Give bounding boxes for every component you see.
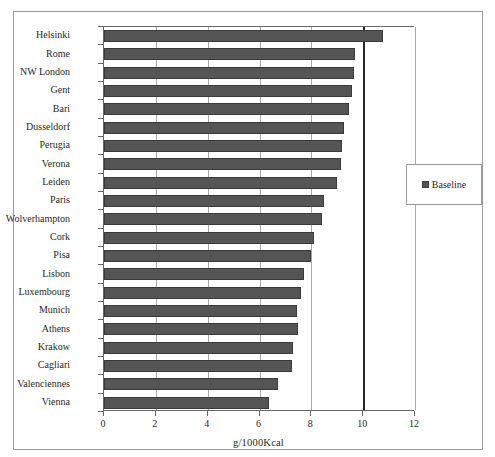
category-label-gent: Gent [0, 85, 70, 95]
bar-nw-london[interactable] [104, 67, 354, 79]
bar-rome[interactable] [104, 48, 355, 60]
bar-row [104, 284, 415, 302]
category-tick [98, 191, 103, 192]
bar-krakow[interactable] [104, 342, 293, 354]
bar-row [104, 137, 415, 155]
bar-perugia[interactable] [104, 140, 342, 152]
category-label-athens: Athens [0, 324, 70, 334]
bar-valenciennes[interactable] [104, 378, 278, 390]
x-tick-label-12: 12 [394, 418, 434, 429]
category-tick [98, 63, 103, 64]
category-tick [98, 44, 103, 45]
x-tick-label-10: 10 [342, 418, 382, 429]
category-label-paris: Paris [0, 195, 70, 205]
category-tick [98, 209, 103, 210]
bar-dusseldorf[interactable] [104, 122, 344, 134]
bar-luxembourg[interactable] [104, 287, 301, 299]
category-label-rome: Rome [0, 49, 70, 59]
bar-row [104, 82, 415, 100]
plot-area [103, 26, 414, 411]
bar-cork[interactable] [104, 232, 314, 244]
bar-wolverhampton[interactable] [104, 213, 322, 225]
x-tick-8 [310, 411, 311, 416]
category-label-helsinki: Helsinki [0, 30, 70, 40]
category-label-leiden: Leiden [0, 177, 70, 187]
category-tick [98, 136, 103, 137]
category-label-dusseldorf: Dusseldorf [0, 122, 70, 132]
category-tick [98, 118, 103, 119]
category-label-cagliari: Cagliari [0, 360, 70, 370]
category-label-cork: Cork [0, 232, 70, 242]
bar-row [104, 45, 415, 63]
bar-row [104, 119, 415, 137]
category-tick [98, 154, 103, 155]
bar-row [104, 174, 415, 192]
category-tick [98, 81, 103, 82]
category-label-verona: Verona [0, 159, 70, 169]
category-label-perugia: Perugia [0, 140, 70, 150]
bar-bari[interactable] [104, 103, 349, 115]
bar-rows [104, 27, 414, 410]
bar-paris[interactable] [104, 195, 324, 207]
category-tick [98, 99, 103, 100]
chart-legend: Baseline [406, 164, 482, 205]
category-label-valenciennes: Valenciennes [0, 379, 70, 389]
legend-entry-baseline: Baseline [422, 180, 466, 190]
bar-row [104, 339, 415, 357]
bar-row [104, 375, 415, 393]
x-tick-6 [259, 411, 260, 416]
x-tick-0 [103, 411, 104, 416]
bar-leiden[interactable] [104, 177, 337, 189]
category-label-vienna: Vienna [0, 397, 70, 407]
category-tick [98, 264, 103, 265]
bar-gent[interactable] [104, 85, 352, 97]
category-tick [98, 301, 103, 302]
category-tick [98, 228, 103, 229]
gridline-12 [415, 27, 416, 410]
x-tick-label-6: 6 [239, 418, 279, 429]
category-tick [98, 338, 103, 339]
chart-frame: HelsinkiRomeNW LondonGentBariDusseldorfP… [13, 11, 483, 450]
bar-row [104, 100, 415, 118]
bar-row [104, 210, 415, 228]
category-tick [98, 319, 103, 320]
bar-row [104, 229, 415, 247]
bar-athens[interactable] [104, 323, 298, 335]
category-label-pisa: Pisa [0, 250, 70, 260]
bar-row [104, 64, 415, 82]
bar-row [104, 320, 415, 338]
x-tick-10 [362, 411, 363, 416]
bar-row [104, 394, 415, 412]
bar-row [104, 27, 415, 45]
bar-row [104, 357, 415, 375]
bar-row [104, 155, 415, 173]
bar-cagliari[interactable] [104, 360, 292, 372]
category-tick [98, 246, 103, 247]
category-tick [98, 374, 103, 375]
x-tick-label-4: 4 [187, 418, 227, 429]
category-label-wolverhampton: Wolverhampton [0, 214, 70, 224]
category-tick [98, 173, 103, 174]
x-tick-label-2: 2 [135, 418, 175, 429]
category-label-krakow: Krakow [0, 342, 70, 352]
x-axis-title: g/1000Kcal [103, 437, 414, 448]
x-tick-label-0: 0 [83, 418, 123, 429]
x-tick-4 [207, 411, 208, 416]
bar-helsinki[interactable] [104, 30, 383, 42]
category-label-luxembourg: Luxembourg [0, 287, 70, 297]
x-tick-2 [155, 411, 156, 416]
bar-row [104, 265, 415, 283]
category-label-munich: Munich [0, 305, 70, 315]
bar-lisbon[interactable] [104, 268, 304, 280]
bar-pisa[interactable] [104, 250, 311, 262]
x-tick-12 [414, 411, 415, 416]
legend-swatch-icon [422, 181, 429, 188]
bar-row [104, 192, 415, 210]
bar-row [104, 302, 415, 320]
category-tick [98, 26, 103, 27]
bar-vienna[interactable] [104, 397, 269, 409]
bar-verona[interactable] [104, 158, 341, 170]
bar-munich[interactable] [104, 305, 297, 317]
category-tick [98, 393, 103, 394]
category-label-nw-london: NW London [0, 67, 70, 77]
